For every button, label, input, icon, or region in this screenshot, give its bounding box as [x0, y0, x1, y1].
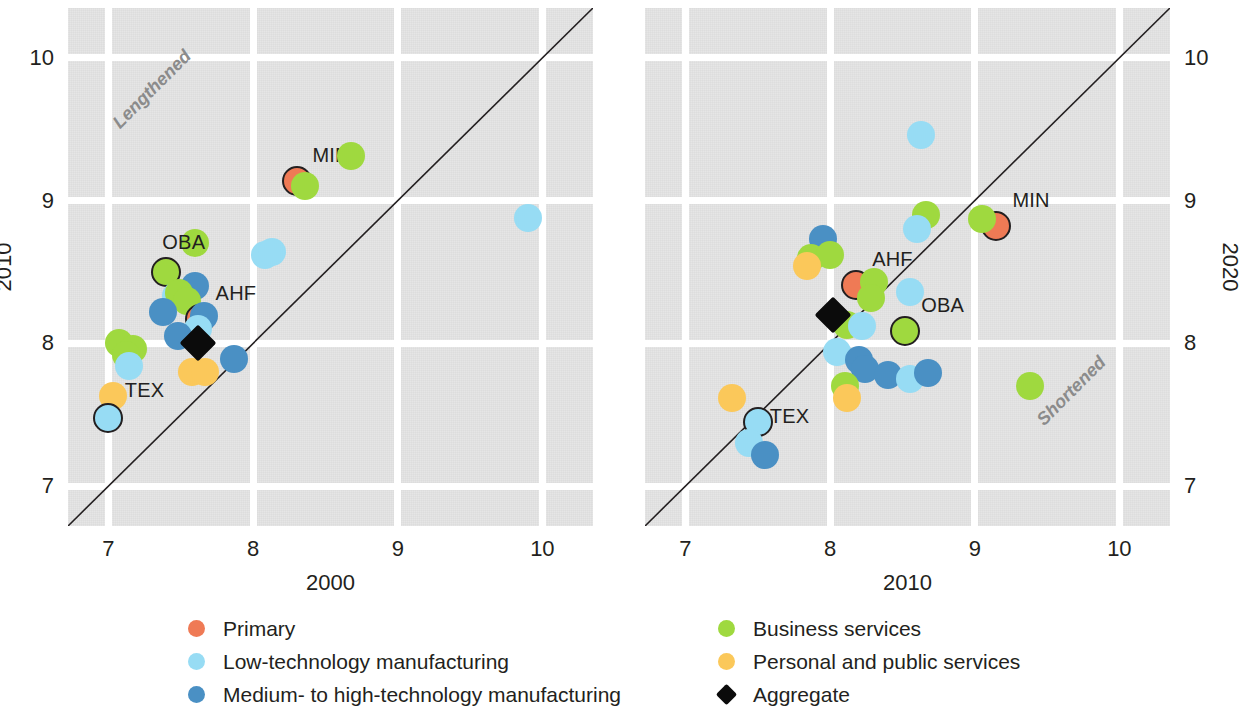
legend-item-personal: Personal and public services [718, 645, 1020, 678]
point-label-oba: OBA [921, 293, 964, 316]
data-point-mediumhigh [220, 345, 248, 373]
data-point-personal [191, 358, 219, 386]
data-point-mediumhigh [751, 441, 779, 469]
legend-swatch-business-icon [718, 620, 735, 637]
legend-swatch-primary-icon [188, 620, 205, 637]
data-point-business [337, 142, 365, 170]
data-point-lowtech [258, 238, 286, 266]
legend-item-primary: Primary [188, 612, 621, 645]
y-tick-label: 10 [30, 45, 54, 71]
y-tick-label: 10 [1184, 45, 1208, 71]
point-label-ahf: AHF [872, 247, 913, 270]
data-point-lowtech [115, 352, 143, 380]
point-label-min: MIN [1012, 189, 1049, 212]
legend-item-lowtech: Low-technology manufacturing [188, 645, 621, 678]
x-axis-title: 2000 [306, 570, 355, 596]
legend-swatch-aggregate-icon [716, 684, 737, 705]
data-point-lowtech [907, 121, 935, 149]
legend-swatch-mediumhigh-icon [188, 686, 205, 703]
data-point-business [291, 172, 319, 200]
legend-item-business: Business services [718, 612, 1020, 645]
y-axis-title: 2020 [1217, 243, 1243, 292]
legend-label: Low-technology manufacturing [223, 650, 509, 674]
x-tick-label: 8 [824, 536, 836, 562]
x-tick-label: 9 [969, 536, 981, 562]
point-label-tex: TEX [125, 379, 165, 402]
data-point-business [1016, 372, 1044, 400]
x-tick-label: 10 [530, 536, 554, 562]
point-label-tex: TEX [770, 404, 810, 427]
point-label-oba: OBA [162, 230, 205, 253]
legend-label: Business services [753, 617, 921, 641]
y-axis-title: 2010 [0, 243, 17, 292]
data-point-lowtech [896, 278, 924, 306]
data-point-personal [793, 252, 821, 280]
legend-item-mediumhigh: Medium- to high-technology manufacturing [188, 678, 621, 711]
data-point-personal [718, 384, 746, 412]
point-label-ahf: AHF [216, 282, 257, 305]
panel-left: LengthenedMINOBAAHFTEX 78910789102000201… [0, 0, 610, 600]
legend-label: Medium- to high-technology manufacturing [223, 683, 621, 707]
legend-column-left: PrimaryLow-technology manufacturingMediu… [188, 612, 621, 711]
plot-area-left: LengthenedMINOBAAHFTEX [68, 8, 593, 526]
legend: PrimaryLow-technology manufacturingMediu… [0, 612, 1221, 717]
data-point-mediumhigh [914, 359, 942, 387]
data-point-business [890, 316, 920, 346]
y-tick-label: 8 [42, 330, 54, 356]
x-tick-label: 7 [102, 536, 114, 562]
data-point-lowtech [93, 403, 123, 433]
legend-label: Aggregate [753, 683, 850, 707]
data-point-personal [833, 384, 861, 412]
legend-swatch-lowtech-icon [188, 653, 205, 670]
y-tick-label: 7 [42, 473, 54, 499]
data-point-lowtech [848, 312, 876, 340]
x-tick-label: 10 [1107, 536, 1131, 562]
y-tick-label: 9 [1184, 188, 1196, 214]
data-point-business [968, 205, 996, 233]
y-tick-label: 7 [1184, 473, 1196, 499]
plot-area-right: ShortenedMINAHFOBATEX [645, 8, 1170, 526]
x-axis-title: 2010 [883, 570, 932, 596]
data-point-lowtech [903, 215, 931, 243]
data-point-lowtech [514, 204, 542, 232]
x-tick-label: 7 [679, 536, 691, 562]
y-tick-label: 8 [1184, 330, 1196, 356]
legend-item-aggregate: Aggregate [718, 678, 1020, 711]
data-point-business [857, 284, 885, 312]
x-tick-label: 9 [392, 536, 404, 562]
panel-right: ShortenedMINAHFOBATEX 789107891020102020 [611, 0, 1221, 600]
legend-swatch-personal-icon [718, 653, 735, 670]
legend-label: Primary [223, 617, 295, 641]
legend-column-right: Business servicesPersonal and public ser… [718, 612, 1020, 711]
x-tick-label: 8 [247, 536, 259, 562]
legend-label: Personal and public services [753, 650, 1020, 674]
y-tick-label: 9 [42, 188, 54, 214]
